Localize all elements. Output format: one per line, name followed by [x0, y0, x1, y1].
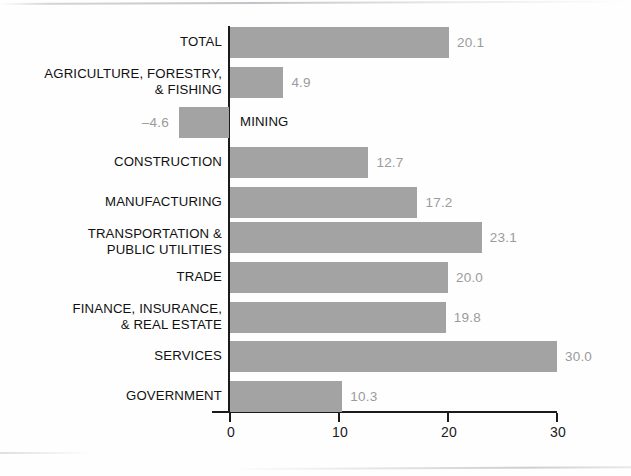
bar — [230, 222, 482, 253]
value-label: 20.0 — [456, 270, 483, 285]
bar — [230, 381, 342, 412]
category-label: FINANCE, INSURANCE, & REAL ESTATE — [73, 301, 222, 332]
x-axis-tick-label: 0 — [201, 424, 261, 440]
x-axis-tick-label: 30 — [528, 424, 588, 440]
x-axis-tick-label: 20 — [419, 424, 479, 440]
category-label: MANUFACTURING — [105, 194, 222, 210]
x-axis-tick — [338, 413, 340, 422]
category-label: SERVICES — [154, 348, 222, 364]
value-label: 20.1 — [457, 35, 484, 50]
bar — [230, 67, 283, 98]
category-label: TRADE — [177, 269, 222, 285]
x-axis-tick — [447, 413, 449, 422]
bar — [230, 341, 557, 372]
value-label: 19.8 — [454, 310, 481, 325]
value-label: –4.6 — [121, 115, 169, 130]
category-label: MINING — [240, 114, 289, 130]
bar — [230, 262, 448, 293]
category-label: CONSTRUCTION — [114, 154, 222, 170]
bar — [230, 187, 417, 218]
bar — [230, 27, 449, 58]
category-label: AGRICULTURE, FORESTRY, & FISHING — [44, 66, 222, 97]
value-label: 10.3 — [350, 389, 377, 404]
plot-area: 0102030TOTAL20.1AGRICULTURE, FORESTRY, &… — [0, 0, 631, 476]
x-axis-tick-label: 10 — [310, 424, 370, 440]
bar — [230, 302, 446, 333]
category-label: TOTAL — [180, 34, 222, 50]
bar-chart: 0102030TOTAL20.1AGRICULTURE, FORESTRY, &… — [0, 0, 631, 476]
value-label: 30.0 — [565, 349, 592, 364]
value-label: 17.2 — [425, 195, 452, 210]
bar — [230, 147, 368, 178]
value-label: 12.7 — [376, 155, 403, 170]
value-label: 23.1 — [490, 230, 517, 245]
value-label: 4.9 — [291, 75, 310, 90]
x-axis-tick — [556, 413, 558, 422]
x-axis-tick — [229, 413, 231, 422]
category-label: GOVERNMENT — [126, 388, 222, 404]
bar — [179, 107, 229, 138]
category-label: TRANSPORTATION & PUBLIC UTILITIES — [88, 226, 222, 257]
